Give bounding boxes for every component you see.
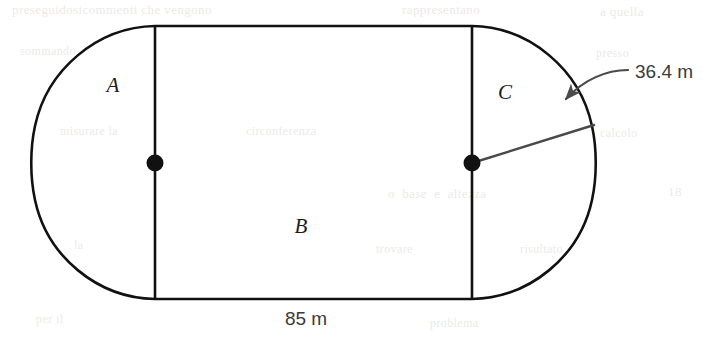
center-dot-right <box>464 155 481 172</box>
stadium-outline <box>31 26 596 299</box>
region-label-a: A <box>105 73 120 97</box>
dimension-label-radius: 36.4 m <box>635 61 693 82</box>
geometry-figure: preseguidosicommenti che vengono rappres… <box>0 0 720 340</box>
radius-line <box>472 125 594 163</box>
region-label-c: C <box>498 80 513 104</box>
center-dot-left <box>147 155 164 172</box>
region-label-b: B <box>295 214 308 238</box>
figure-canvas: A B C 85 m 36.4 m <box>0 0 720 340</box>
dimension-label-length: 85 m <box>285 308 327 329</box>
